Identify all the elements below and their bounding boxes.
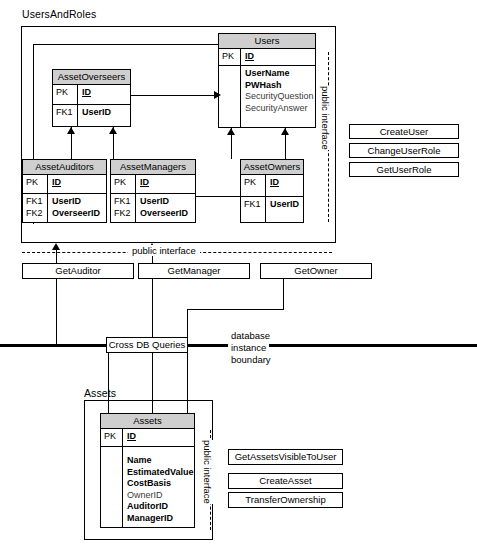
table-asset-auditors-fk-keys: FK1 FK2 [23, 194, 48, 223]
table-asset-overseers-pk-field: ID [78, 85, 130, 104]
table-assets-pk-key: PK [101, 429, 123, 446]
operation-get-user-role[interactable]: GetUserRole [349, 162, 459, 177]
boundary-label-line3: boundary [228, 353, 274, 366]
table-users-pk-key: PK [219, 49, 241, 65]
field-userid: UserID [52, 196, 106, 208]
key-fk2: FK2 [26, 208, 47, 220]
field-overseerid: OverseerID [140, 208, 195, 220]
field-auditorid: AuditorID [127, 501, 194, 513]
group-label-assets: Assets [84, 387, 116, 399]
table-asset-overseers-fk-field: UserID [78, 105, 130, 127]
field-costbasis: CostBasis [127, 478, 194, 490]
field-securityanswer: SecurityAnswer [245, 103, 315, 115]
table-users-attr-keys [219, 66, 241, 128]
connector-auditors-stub [33, 223, 34, 224]
table-asset-auditors-title: AssetAuditors [23, 160, 106, 175]
table-asset-managers-pk-field: ID [136, 175, 195, 193]
arrowhead-auditors-to-overseers [67, 127, 75, 134]
table-asset-owners-pk-field: ID [266, 175, 303, 196]
table-asset-managers-fk-fields: UserID OverseerID [136, 194, 195, 223]
table-assets-attr-rows: Name EstimatedValue CostBasis OwnerID Au… [101, 447, 194, 528]
connector-auditors-to-users-horizontal [33, 44, 224, 45]
table-users-pk-row: PK ID [219, 49, 315, 66]
table-asset-overseers-fk-row: FK1 UserID [53, 105, 130, 127]
arrowhead-managers-to-overseers [109, 127, 117, 134]
table-asset-auditors-pk-row: PK ID [23, 175, 106, 194]
operation-get-owner[interactable]: GetOwner [260, 263, 372, 279]
table-asset-auditors-pk-key: PK [23, 175, 48, 193]
table-asset-owners-pk-row: PK ID [241, 175, 303, 197]
key-fk2: FK2 [114, 208, 135, 220]
table-asset-managers[interactable]: AssetManagers PK ID FK1 FK2 UserID Overs… [110, 159, 196, 223]
table-asset-overseers-pk-row: PK ID [53, 85, 130, 105]
connector-overseers-to-users [131, 95, 216, 96]
table-asset-overseers-title: AssetOverseers [53, 70, 130, 85]
key-fk1: FK1 [114, 196, 135, 208]
table-users-attr-rows: UserName PWHash SecurityQuestion Securit… [219, 66, 315, 128]
arrowhead-right-to-users [281, 128, 289, 135]
table-assets[interactable]: Assets PK ID Name EstimatedValue CostBas… [100, 413, 195, 528]
operation-transfer-ownership[interactable]: TransferOwnership [228, 492, 343, 508]
table-asset-owners-fk-row: FK1 UserID [241, 197, 303, 223]
table-asset-owners[interactable]: AssetOwners PK ID FK1 UserID [240, 159, 304, 223]
table-assets-pk-row: PK ID [101, 429, 194, 447]
cross-db-queries-box[interactable]: Cross DB Queries [106, 337, 188, 353]
arrowhead-getauditor-up [52, 243, 60, 250]
field-name: Name [127, 455, 194, 467]
table-asset-owners-fk-field: UserID [266, 197, 303, 223]
table-asset-managers-title: AssetManagers [111, 160, 195, 175]
public-interface-label-users: public interface [318, 86, 333, 150]
table-asset-auditors-fk-rows: FK1 FK2 UserID OverseerID [23, 194, 106, 223]
key-fk1: FK1 [26, 196, 47, 208]
field-ownerid: OwnerID [127, 490, 194, 502]
diagram-canvas: UsersAndRoles Users PK ID UserName PWHas… [0, 0, 477, 544]
operation-get-assets-visible-to-user[interactable]: GetAssetsVisibleToUser [228, 449, 343, 465]
field-securityquestion: SecurityQuestion [245, 91, 315, 103]
table-users-title: Users [219, 34, 315, 49]
public-interface-label-users-bottom: public interface [128, 245, 200, 256]
table-assets-attr-fields: Name EstimatedValue CostBasis OwnerID Au… [123, 447, 194, 528]
field-pwhash: PWHash [245, 80, 315, 92]
table-assets-pk-field: ID [123, 429, 194, 446]
table-assets-attr-keys [101, 447, 123, 528]
table-asset-managers-fk-rows: FK1 FK2 UserID OverseerID [111, 194, 195, 223]
operation-get-manager[interactable]: GetManager [138, 263, 250, 279]
table-asset-auditors-pk-field: ID [48, 175, 106, 193]
table-asset-overseers-fk-key: FK1 [53, 105, 78, 127]
field-managerid: ManagerID [127, 513, 194, 525]
table-asset-managers-fk-keys: FK1 FK2 [111, 194, 136, 223]
rail-getowner-left [187, 309, 284, 310]
operation-change-user-role[interactable]: ChangeUserRole [349, 143, 459, 158]
public-interface-label-assets: public interface [200, 440, 215, 504]
rail-getmanager-down [152, 279, 153, 369]
field-overseerid: OverseerID [52, 208, 106, 220]
table-users[interactable]: Users PK ID UserName PWHash SecurityQues… [218, 33, 316, 128]
table-asset-owners-pk-key: PK [241, 175, 266, 196]
arrowhead-overseers-to-users [214, 91, 221, 99]
field-userid: UserID [140, 196, 195, 208]
table-asset-overseers-pk-key: PK [53, 85, 78, 104]
group-label-users-and-roles: UsersAndRoles [22, 8, 96, 20]
table-users-pk-field: ID [241, 49, 315, 65]
table-assets-title: Assets [101, 414, 194, 429]
operation-get-auditor[interactable]: GetAuditor [22, 263, 134, 279]
table-asset-managers-pk-row: PK ID [111, 175, 195, 194]
table-asset-overseers[interactable]: AssetOverseers PK ID FK1 UserID [52, 69, 131, 127]
table-asset-auditors[interactable]: AssetAuditors PK ID FK1 FK2 UserID Overs… [22, 159, 107, 223]
operation-create-asset[interactable]: CreateAsset [228, 473, 343, 489]
table-asset-managers-pk-key: PK [111, 175, 136, 193]
table-users-attr-fields: UserName PWHash SecurityQuestion Securit… [241, 66, 315, 128]
table-asset-owners-title: AssetOwners [241, 160, 303, 175]
rail-getauditor-down [56, 279, 57, 309]
arrowhead-owners-to-users [227, 128, 235, 135]
rail-getauditor-down2 [56, 309, 57, 345]
field-estimatedvalue: EstimatedValue [127, 467, 194, 479]
table-asset-owners-fk-key: FK1 [241, 197, 266, 223]
table-asset-auditors-fk-fields: UserID OverseerID [48, 194, 106, 223]
field-username: UserName [245, 68, 315, 80]
operation-create-user[interactable]: CreateUser [349, 124, 459, 139]
rail-getowner-down [283, 279, 284, 309]
